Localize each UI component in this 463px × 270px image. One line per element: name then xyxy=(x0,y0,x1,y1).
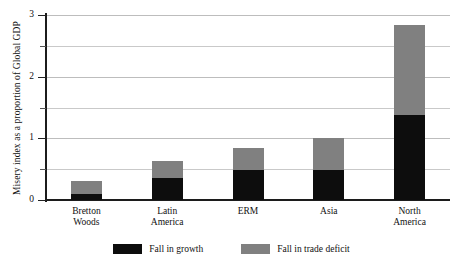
y-tick-label-2: 2 xyxy=(6,71,34,81)
gridline-2 xyxy=(46,77,450,78)
gridline-3 xyxy=(46,15,450,16)
legend-swatch-growth xyxy=(113,244,142,254)
x-label-line: Asia xyxy=(289,206,369,217)
legend-item[interactable]: Fall in trade deficit xyxy=(241,244,350,254)
x-label-line: Latin xyxy=(127,206,207,217)
bar-segment-growth[interactable] xyxy=(313,170,344,200)
legend-label: Fall in growth xyxy=(149,244,203,254)
x-label-latin-america: LatinAmerica xyxy=(127,206,207,228)
bar-segment-trade-deficit[interactable] xyxy=(394,25,425,114)
bar-north-america[interactable] xyxy=(394,25,425,200)
gridline-1 xyxy=(46,138,450,139)
bar-segment-trade-deficit[interactable] xyxy=(313,138,344,170)
x-label-bretton-woods: BrettonWoods xyxy=(46,206,126,228)
x-label-line: America xyxy=(127,217,207,228)
bar-segment-growth[interactable] xyxy=(152,178,183,200)
bar-latin-america[interactable] xyxy=(152,161,183,200)
y-major-tick-1 xyxy=(38,138,46,139)
legend-item[interactable]: Fall in growth xyxy=(113,244,203,254)
bar-segment-trade-deficit[interactable] xyxy=(152,161,183,178)
y-tick-label-0: 0 xyxy=(6,194,34,204)
y-minor-tick-2-5 xyxy=(40,46,46,47)
x-label-north-america: NorthAmerica xyxy=(370,206,450,228)
gridline-2-5 xyxy=(46,46,450,47)
y-tick-label-3: 3 xyxy=(6,9,34,19)
legend-swatch-deficit xyxy=(241,244,270,254)
chart-legend: Fall in growthFall in trade deficit xyxy=(0,244,463,254)
x-label-erm: ERM xyxy=(208,206,288,217)
legend-label: Fall in trade deficit xyxy=(277,244,350,254)
x-label-line: Bretton xyxy=(46,206,126,217)
x-label-line: America xyxy=(370,217,450,228)
y-axis-title: Misery index as a proportion of Global G… xyxy=(12,13,22,203)
x-label-line: Woods xyxy=(46,217,126,228)
gridline-1-5 xyxy=(46,108,450,109)
y-major-tick-3 xyxy=(38,15,46,16)
y-major-tick-2 xyxy=(38,77,46,78)
bar-segment-growth[interactable] xyxy=(71,194,102,200)
bar-segment-trade-deficit[interactable] xyxy=(71,181,102,194)
bar-segment-trade-deficit[interactable] xyxy=(233,148,264,171)
x-label-line: North xyxy=(370,206,450,217)
y-minor-tick-1-5 xyxy=(40,108,46,109)
y-tick-label-1: 1 xyxy=(6,132,34,142)
bar-bretton-woods[interactable] xyxy=(71,181,102,200)
bar-asia[interactable] xyxy=(313,138,344,200)
x-label-line: ERM xyxy=(208,206,288,217)
chart-figure: Misery index as a proportion of Global G… xyxy=(0,0,463,270)
bar-segment-growth[interactable] xyxy=(233,170,264,200)
bar-erm[interactable] xyxy=(233,148,264,200)
y-minor-tick-0-5 xyxy=(40,169,46,170)
bar-segment-growth[interactable] xyxy=(394,115,425,200)
y-major-tick-0 xyxy=(38,200,46,201)
x-label-asia: Asia xyxy=(289,206,369,217)
